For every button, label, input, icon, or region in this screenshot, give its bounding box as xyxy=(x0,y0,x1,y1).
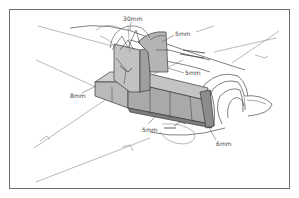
label-side-armour: 8mm xyxy=(70,93,86,99)
lower-wing-edge xyxy=(160,122,195,144)
label-cowling-armour: 6mm xyxy=(216,141,232,147)
armour-plates xyxy=(95,72,215,128)
aircraft-armour-diagram xyxy=(0,0,299,198)
label-canopy-armour: 30mm xyxy=(123,16,143,22)
label-floor-armour: 5mm xyxy=(142,127,158,133)
label-bulkhead-armour: 5mm xyxy=(185,70,201,76)
label-head-armour: 5mm xyxy=(175,31,191,37)
